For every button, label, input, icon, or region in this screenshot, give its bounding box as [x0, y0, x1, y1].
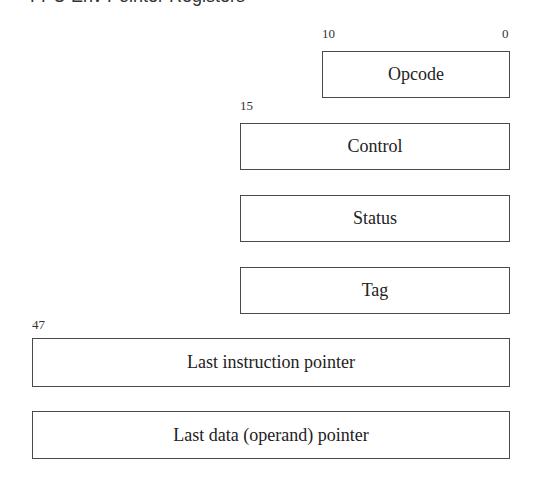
last-instruction-pointer-label: Last instruction pointer	[187, 352, 355, 373]
tag-register-box: Tag	[240, 267, 510, 314]
control-register-box: Control	[240, 123, 510, 170]
control-register-label: Control	[347, 136, 402, 157]
instruction-pointer-high-bit-label: 47	[32, 318, 45, 331]
status-register-label: Status	[353, 208, 397, 229]
tag-register-label: Tag	[362, 280, 389, 301]
last-data-pointer-box: Last data (operand) pointer	[32, 411, 510, 459]
opcode-low-bit-label: 0	[502, 27, 509, 40]
last-instruction-pointer-box: Last instruction pointer	[32, 338, 510, 387]
diagram-title-clipped: FPU Env Pointer Registers	[30, 0, 245, 7]
opcode-register-box: Opcode	[322, 51, 510, 98]
status-register-box: Status	[240, 195, 510, 242]
opcode-high-bit-label: 10	[322, 27, 335, 40]
opcode-register-label: Opcode	[388, 64, 444, 85]
last-data-pointer-label: Last data (operand) pointer	[173, 425, 368, 446]
control-high-bit-label: 15	[240, 99, 253, 112]
